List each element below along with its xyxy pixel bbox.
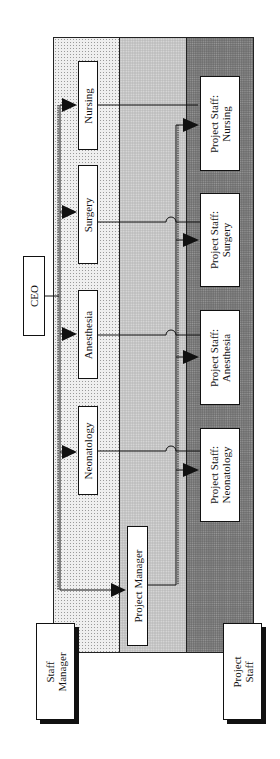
project-staff-line2: Anesthesia [220,333,232,381]
project-staff-line2: Surgery [220,223,232,258]
department-label: Anesthesia [82,310,94,358]
project-staff-anesthesia: Project Staff: Anesthesia [200,310,240,405]
legend-line1: Staff [44,661,56,682]
department-label: Neonatology [82,422,94,479]
department-surgery: Surgery [78,165,98,264]
legend-line2: Staff [242,661,254,682]
legend-line2: Manager [56,652,68,691]
project-staff-label: Project Staff: Neonatology [208,446,232,504]
project-staff-line1: Project Staff: [208,94,220,152]
legend-label: Project Staff [230,656,254,687]
department-label: Nursing [82,88,94,123]
department-nursing: Nursing [78,61,98,150]
department-label: Surgery [82,197,94,232]
project-staff-surgery: Project Staff: Surgery [200,193,240,287]
legend-label: Staff Manager [44,652,68,691]
project-staff-label: Project Staff: Anesthesia [208,328,232,386]
legend-line1: Project [230,656,242,687]
project-staff-line1: Project Staff: [208,328,220,386]
legend-project-staff: Project Staff [223,623,262,720]
legend-staff-manager: Staff Manager [36,623,75,720]
project-staff-line2: Nursing [220,106,232,141]
project-staff-neonatology: Project Staff: Neonatology [200,428,240,522]
project-staff-nursing: Project Staff: Nursing [200,76,240,171]
ceo-label: CEO [28,285,40,307]
project-staff-label: Project Staff: Surgery [208,211,232,269]
project-staff-line1: Project Staff: [208,446,220,504]
ceo-node: CEO [23,256,45,336]
project-manager-node: Project Manager [127,526,148,646]
project-staff-label: Project Staff: Nursing [208,94,232,152]
project-staff-line1: Project Staff: [208,211,220,269]
project-manager-label: Project Manager [132,550,144,623]
project-staff-line2: Neonatology [220,447,232,504]
department-neonatology: Neonatology [78,406,98,495]
department-anesthesia: Anesthesia [78,290,98,379]
